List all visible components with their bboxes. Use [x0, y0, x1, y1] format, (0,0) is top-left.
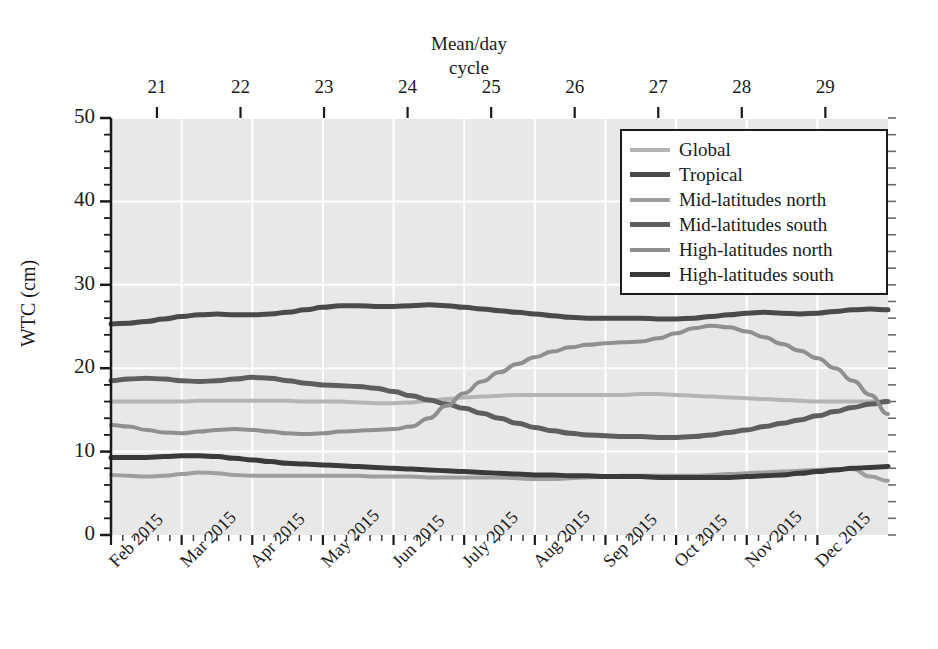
legend-swatch-line-icon [630, 172, 670, 177]
legend-item[interactable]: High-latitudes north [630, 237, 876, 262]
legend-item[interactable]: Mid-latitudes north [630, 187, 876, 212]
legend-label: High-latitudes north [679, 240, 833, 259]
top-axis-title: Mean/daycycle [0, 32, 938, 80]
legend-swatch-line-icon [630, 148, 670, 152]
top-tick-label: 26 [555, 76, 595, 98]
top-tick-label: 25 [471, 76, 511, 98]
top-tick-label: 21 [137, 76, 177, 98]
top-axis-title-line: Mean/day [0, 32, 938, 56]
top-tick-label: 22 [221, 76, 261, 98]
chart-legend: GlobalTropicalMid-latitudes northMid-lat… [620, 129, 888, 295]
legend-label: Tropical [679, 165, 743, 184]
y-tick-label: 30 [59, 271, 95, 296]
legend-item[interactable]: High-latitudes south [630, 262, 876, 287]
y-axis-label: WTC (cm) [17, 244, 40, 364]
top-tick-label: 23 [304, 76, 344, 98]
y-tick-label: 50 [59, 104, 95, 129]
legend-label: Mid-latitudes north [679, 190, 826, 209]
top-tick-label: 28 [722, 76, 762, 98]
top-tick-label: 27 [638, 76, 678, 98]
y-tick-label: 0 [59, 521, 95, 546]
y-tick-label: 10 [59, 438, 95, 463]
legend-item[interactable]: Global [630, 137, 876, 162]
legend-item[interactable]: Mid-latitudes south [630, 212, 876, 237]
legend-swatch-line-icon [630, 248, 670, 252]
legend-item[interactable]: Tropical [630, 162, 876, 187]
legend-label: Global [679, 140, 731, 159]
top-tick-label: 24 [388, 76, 428, 98]
legend-label: High-latitudes south [679, 265, 834, 284]
legend-swatch-line-icon [630, 222, 670, 227]
chart-figure: Mean/daycycle WTC (cm) GlobalTropicalMid… [0, 0, 938, 649]
top-tick-label: 29 [805, 76, 845, 98]
legend-swatch-line-icon [630, 198, 670, 202]
y-tick-label: 40 [59, 187, 95, 212]
legend-label: Mid-latitudes south [679, 215, 827, 234]
legend-swatch-line-icon [630, 272, 670, 277]
y-tick-label: 20 [59, 354, 95, 379]
